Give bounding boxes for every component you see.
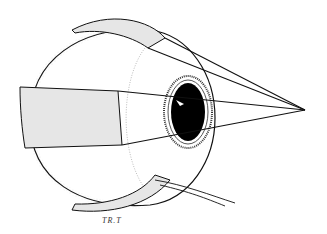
artist-signature: TR.T: [102, 216, 122, 225]
optic-nerve: [20, 87, 122, 148]
eye-diagram: [0, 0, 327, 234]
